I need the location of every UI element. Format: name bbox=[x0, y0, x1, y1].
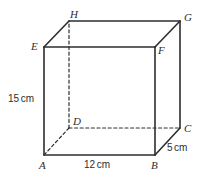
dimension-value-height: 15 bbox=[8, 93, 19, 104]
edge-D-A bbox=[44, 128, 69, 155]
vertex-label-f: F bbox=[158, 45, 165, 56]
dimension-value-width: 12 bbox=[84, 159, 95, 170]
vertex-label-b: B bbox=[151, 160, 158, 171]
vertex-label-e: E bbox=[31, 41, 38, 52]
dimension-label-height: 15cm bbox=[8, 94, 34, 104]
vertex-label-g: G bbox=[184, 12, 192, 23]
dimension-unit-width: cm bbox=[97, 159, 110, 170]
dimension-label-width: 12cm bbox=[84, 160, 110, 170]
vertex-label-a: A bbox=[39, 160, 46, 171]
dimension-unit-height: cm bbox=[21, 93, 34, 104]
vertex-label-d: D bbox=[73, 116, 81, 127]
dimension-unit-depth: cm bbox=[174, 142, 187, 153]
dimension-value-depth: 5 bbox=[167, 142, 173, 153]
vertex-label-c: C bbox=[184, 123, 191, 134]
edge-E-H bbox=[44, 21, 69, 47]
vertex-label-h: H bbox=[70, 9, 78, 20]
prism-figure: ABCDEFGH 15cm12cm5cm bbox=[0, 0, 201, 178]
visible-edges-group bbox=[44, 21, 180, 155]
dimension-label-depth: 5cm bbox=[167, 143, 187, 153]
